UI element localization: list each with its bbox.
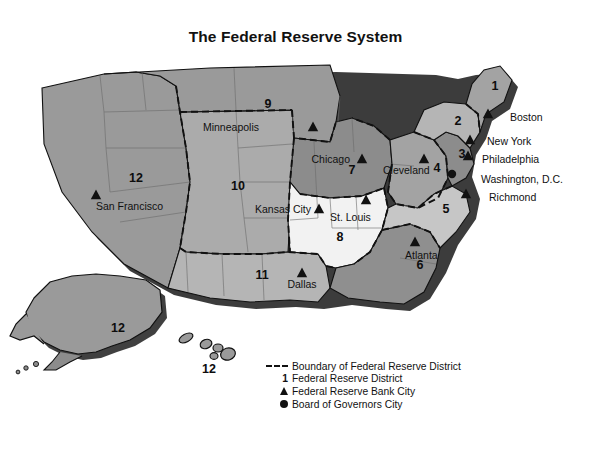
district-number-9: 9: [265, 97, 272, 111]
label-san-francisco: San Francisco: [96, 200, 163, 212]
district-region-12: [42, 72, 190, 288]
hawaii-inset: [178, 331, 237, 362]
legend-item-boundary: Boundary of Federal Reserve District: [262, 360, 492, 373]
district-number-7: 7: [349, 163, 356, 177]
district-number-12-alaska: 12: [111, 321, 125, 335]
map-legend: Boundary of Federal Reserve District 1 F…: [262, 360, 492, 410]
label-new-york: New York: [487, 135, 532, 147]
legend-district-label: Federal Reserve District: [292, 373, 492, 384]
legend-board-city-label: Board of Governors City: [292, 399, 492, 410]
label-philadelphia: Philadelphia: [482, 153, 539, 165]
legend-item-bank-city: Federal Reserve Bank City: [262, 385, 492, 398]
district-number-12-hawaii: 12: [202, 362, 216, 376]
district-number-12: 12: [129, 171, 143, 185]
alaska-inset: [10, 274, 167, 374]
legend-bank-city-label: Federal Reserve Bank City: [292, 386, 492, 397]
district-number-8: 8: [337, 230, 344, 244]
label-st-louis: St. Louis: [330, 211, 371, 223]
legend-triangle-icon: [262, 385, 292, 398]
label-richmond: Richmond: [489, 191, 536, 203]
legend-number-icon: 1: [262, 373, 292, 386]
district-number-11: 11: [255, 268, 268, 282]
legend-dot-icon: [262, 398, 292, 411]
legend-number-value: 1: [282, 373, 288, 384]
board-of-governors-marker-icon: [448, 170, 456, 178]
label-atlanta: Atlanta: [405, 249, 438, 261]
legend-item-district: 1 Federal Reserve District: [262, 373, 492, 386]
label-boston: Boston: [510, 111, 543, 123]
district-number-1: 1: [492, 79, 499, 93]
label-cleveland: Cleveland: [383, 164, 430, 176]
map-svg: 1 2 3 4 5 6 7 8 9 10 11 12 12 12 Minneap…: [0, 52, 591, 382]
federal-reserve-map: 1 2 3 4 5 6 7 8 9 10 11 12 12 12 Minneap…: [0, 52, 591, 382]
label-minneapolis: Minneapolis: [203, 121, 259, 133]
label-dallas: Dallas: [287, 278, 316, 290]
label-kansas-city: Kansas City: [255, 203, 312, 215]
district-number-2: 2: [455, 114, 462, 128]
legend-item-board-city: Board of Governors City: [262, 398, 492, 411]
legend-dashed-line-icon: [262, 360, 292, 373]
label-chicago: Chicago: [311, 153, 350, 165]
district-number-4: 4: [434, 161, 441, 175]
district-number-10: 10: [231, 179, 245, 193]
district-number-5: 5: [443, 202, 450, 216]
page-title: The Federal Reserve System: [0, 28, 591, 46]
legend-boundary-label: Boundary of Federal Reserve District: [292, 361, 492, 372]
label-washington-dc: Washington, D.C.: [481, 173, 563, 185]
